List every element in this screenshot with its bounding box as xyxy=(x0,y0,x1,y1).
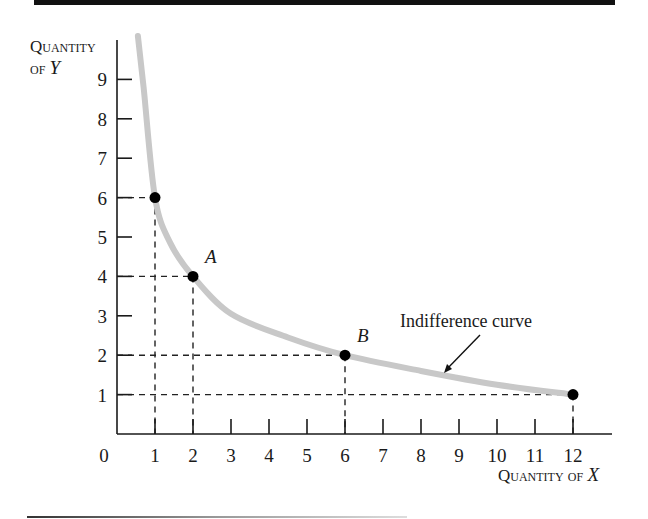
x-tick-label: 3 xyxy=(226,445,236,466)
x-tick-label: 7 xyxy=(378,445,388,466)
indifference-curve xyxy=(138,36,573,395)
y-tick-label: 4 xyxy=(98,266,108,287)
data-point xyxy=(188,271,199,282)
data-point xyxy=(568,389,579,400)
y-tick-label: 7 xyxy=(98,148,108,169)
y-tick-label: 5 xyxy=(98,227,108,248)
x-tick-label: 11 xyxy=(526,445,544,466)
y-tick-label: 2 xyxy=(98,345,108,366)
x-tick-label: 9 xyxy=(454,445,464,466)
y-tick-label: 1 xyxy=(98,385,108,406)
data-point xyxy=(340,350,351,361)
x-tick-label: 10 xyxy=(488,445,507,466)
point-label-b: B xyxy=(357,325,369,346)
data-point xyxy=(150,192,161,203)
indifference-chart: 1234567890123456789101112ABIndifference … xyxy=(0,0,648,519)
y-tick-label: 8 xyxy=(98,109,108,130)
x-tick-label: 6 xyxy=(340,445,350,466)
point-label-a: A xyxy=(203,246,217,267)
y-tick-label: 3 xyxy=(98,306,108,327)
x-tick-label: 12 xyxy=(564,445,583,466)
origin-label: 0 xyxy=(99,445,109,466)
x-tick-label: 2 xyxy=(188,445,198,466)
y-tick-label: 6 xyxy=(98,188,108,209)
curve-annotation: Indifference curve xyxy=(400,311,532,331)
x-tick-label: 8 xyxy=(416,445,426,466)
annotation-arrow-line xyxy=(446,335,480,370)
x-tick-label: 1 xyxy=(150,445,160,466)
y-tick-label: 9 xyxy=(98,69,108,90)
x-tick-label: 5 xyxy=(302,445,312,466)
x-tick-label: 4 xyxy=(264,445,274,466)
bottom-rule xyxy=(27,516,407,518)
